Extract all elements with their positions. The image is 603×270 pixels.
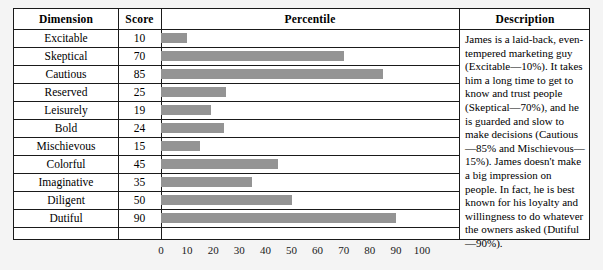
cell-percentile [161,173,459,191]
cell-dimension: Colorful [14,155,118,173]
percentile-bar [161,51,344,61]
percentile-bar [161,195,292,205]
cell-dimension: Bold [14,119,118,137]
page-root: Dimension Score Percentile Description E… [0,0,603,270]
cell-score: 25 [118,83,161,101]
table-row: Skeptical70 [14,47,459,65]
header-dimension: Dimension [14,9,118,29]
cell-percentile [161,47,459,65]
percentile-bar [161,87,226,97]
percentile-bar [161,213,396,223]
percentile-bar [161,33,187,43]
table-row: Colorful45 [14,155,459,173]
description-text: James is a laid-back, even-tempered mark… [459,29,591,239]
cell-percentile [161,155,459,173]
cell-score: 90 [118,209,161,227]
cell-score: 15 [118,137,161,155]
cell-score: 35 [118,173,161,191]
percentile-axis: 0102030405060708090100 [0,243,603,259]
cell-percentile [161,119,459,137]
percentile-bar [161,123,224,133]
cell-dimension: Dutiful [14,209,118,227]
cell-score: 19 [118,101,161,119]
cell-dimension: Imaginative [14,173,118,191]
cell-percentile [161,137,459,155]
percentile-bar [161,177,252,187]
cell-dimension: Excitable [14,29,118,47]
table-row: Imaginative35 [14,173,459,191]
table-row: Reserved25 [14,83,459,101]
table-row: Leisurely19 [14,101,459,119]
table-row: Mischievous15 [14,137,459,155]
table-row: Dutiful90 [14,209,459,227]
personality-profile-table: Dimension Score Percentile Description E… [13,8,590,240]
cell-percentile [161,29,459,47]
cell-dimension: Diligent [14,191,118,209]
cell-dimension: Reserved [14,83,118,101]
table-row: Excitable10 [14,29,459,47]
table-row: Diligent50 [14,191,459,209]
cell-percentile [161,191,459,209]
cell-score: 50 [118,191,161,209]
percentile-bar [161,159,278,169]
row-divider [14,227,459,228]
percentile-bar [161,69,383,79]
table-row: Bold24 [14,119,459,137]
cell-score: 24 [118,119,161,137]
cell-score: 10 [118,29,161,47]
axis-tick-label: 100 [407,243,437,257]
cell-score: 85 [118,65,161,83]
table-row: Cautious85 [14,65,459,83]
cell-percentile [161,209,459,227]
cell-dimension: Skeptical [14,47,118,65]
cell-percentile [161,83,459,101]
cell-dimension: Cautious [14,65,118,83]
header-description: Description [459,9,591,29]
cell-score: 70 [118,47,161,65]
cell-score: 45 [118,155,161,173]
cell-percentile [161,65,459,83]
cell-percentile [161,101,459,119]
cell-dimension: Leisurely [14,101,118,119]
header-percentile: Percentile [161,9,459,29]
percentile-bar [161,141,200,151]
header-score: Score [118,9,161,29]
cell-dimension: Mischievous [14,137,118,155]
percentile-bar [161,105,211,115]
